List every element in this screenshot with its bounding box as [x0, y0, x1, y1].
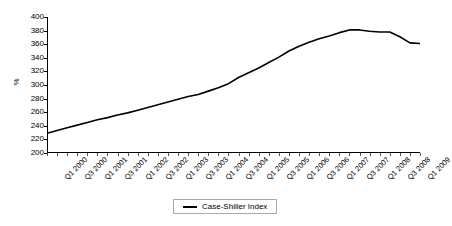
x-axis-tick-mark	[420, 153, 421, 156]
y-axis-tick-label: 280	[20, 95, 44, 103]
y-axis-tick-label: 220	[20, 135, 44, 143]
y-axis-tick-label: 300	[20, 81, 44, 89]
legend-line-swatch	[183, 206, 197, 208]
y-axis-tick-mark	[44, 58, 47, 59]
y-axis-tick-labels: 200220240260280300320340360380400	[18, 0, 44, 226]
legend-label: Case-Shiller Index	[202, 202, 267, 211]
y-axis-tick-label: 320	[20, 67, 44, 75]
y-axis-tick-mark	[44, 71, 47, 72]
y-axis-tick-label: 400	[20, 13, 44, 21]
y-axis-tick-label: 340	[20, 54, 44, 62]
y-axis-tick-mark	[44, 85, 47, 86]
y-axis-tick-mark	[44, 17, 47, 18]
chart-legend: Case-Shiller Index	[173, 199, 277, 214]
y-axis-tick-mark	[44, 126, 47, 127]
y-axis-tick-label: 380	[20, 27, 44, 35]
y-axis-tick-mark	[44, 44, 47, 45]
y-axis-tick-label: 200	[20, 149, 44, 157]
y-axis-tick-mark	[44, 31, 47, 32]
y-axis-tick-label: 360	[20, 40, 44, 48]
series-line-case-shiller-index	[47, 17, 420, 153]
x-axis-tick-labels: Q1 2000Q3 2000Q1 2001Q3 2001Q1 2002Q3 20…	[47, 155, 420, 195]
y-axis-tick-label: 260	[20, 108, 44, 116]
y-axis-tick-mark	[44, 99, 47, 100]
plot-area	[47, 17, 420, 153]
y-axis-tick-mark	[44, 112, 47, 113]
y-axis-tick-mark	[44, 139, 47, 140]
y-axis-tick-label: 240	[20, 122, 44, 130]
